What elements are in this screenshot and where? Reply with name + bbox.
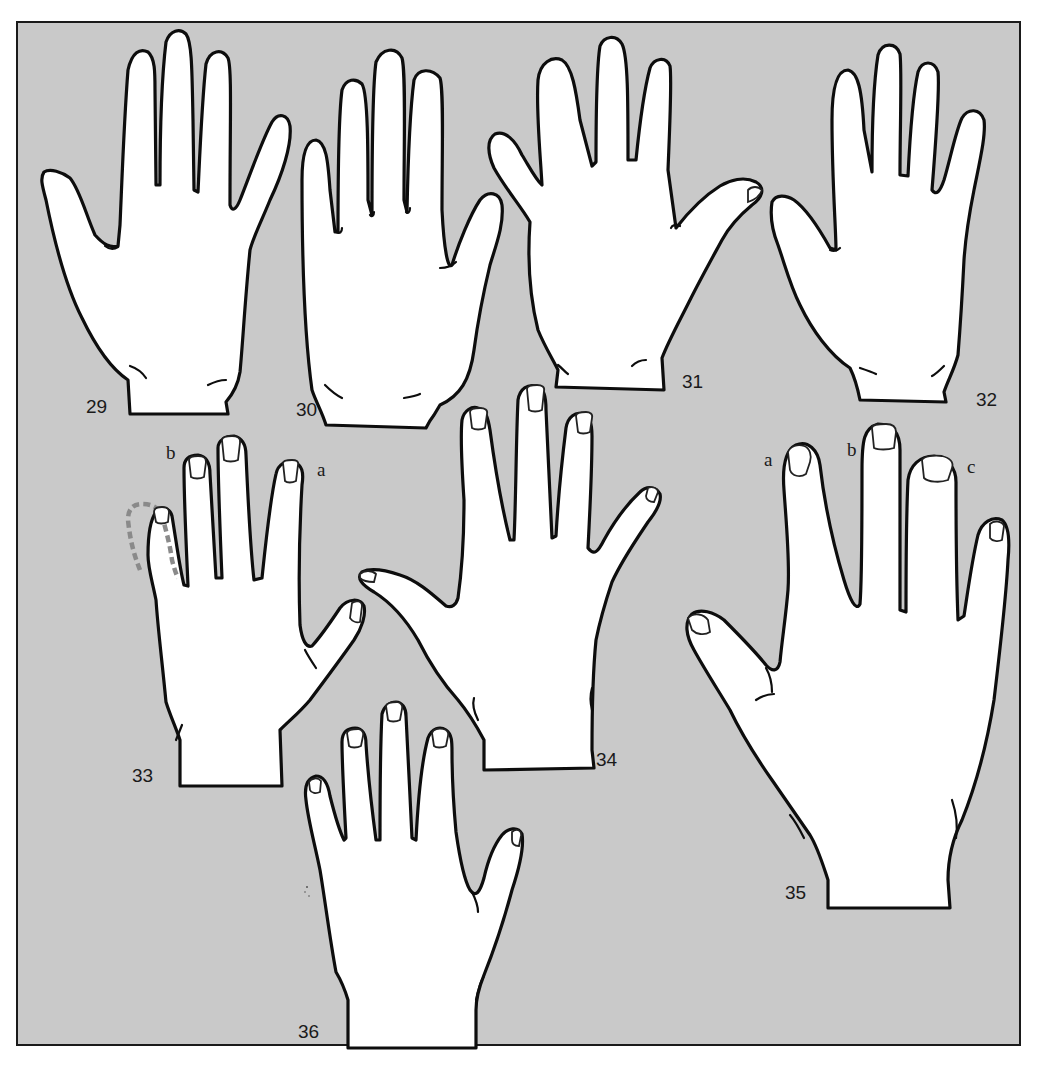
hand-number-29: 29 xyxy=(86,397,107,416)
hand-number-34: 34 xyxy=(596,750,617,769)
hand-33-letter-a: a xyxy=(317,460,325,479)
hand-number-32: 32 xyxy=(976,390,997,409)
hand-30 xyxy=(302,50,502,428)
hand-number-33: 33 xyxy=(132,766,153,785)
ink-specks xyxy=(304,886,310,897)
hand-number-35: 35 xyxy=(785,883,806,902)
hand-35-letter-c: c xyxy=(967,457,975,476)
hand-35-letter-b: b xyxy=(847,440,857,459)
hand-31 xyxy=(489,37,762,390)
hand-35-letter-a: a xyxy=(764,450,772,469)
hand-33 xyxy=(128,436,365,786)
hand-35 xyxy=(687,424,1009,908)
hand-32 xyxy=(771,45,984,402)
hand-29 xyxy=(42,31,290,414)
hand-number-30: 30 xyxy=(296,400,317,419)
hand-number-36: 36 xyxy=(298,1022,319,1041)
hand-number-31: 31 xyxy=(682,372,703,391)
hands-illustration xyxy=(0,0,1041,1080)
hand-33-letter-b: b xyxy=(166,443,176,462)
